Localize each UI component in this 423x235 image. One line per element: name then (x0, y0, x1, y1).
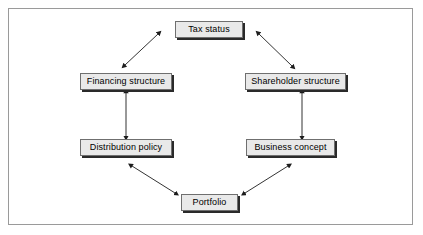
node-tax-status[interactable]: Tax status (175, 21, 243, 38)
node-label: Tax status (187, 25, 231, 34)
arrow-business-concept--portfolio (245, 166, 288, 193)
node-label: Distribution policy (89, 143, 163, 152)
node-label: Business concept (253, 143, 327, 152)
node-label: Financing structure (86, 77, 166, 86)
node-shareholder-structure[interactable]: Shareholder structure (245, 73, 346, 90)
arrow-tax-status--shareholder-structure (259, 34, 292, 66)
node-financing-structure[interactable]: Financing structure (80, 73, 172, 90)
node-portfolio[interactable]: Portfolio (181, 194, 238, 211)
arrow-financing-structure--tax-status (125, 34, 158, 65)
node-label: Portfolio (192, 198, 228, 207)
node-label: Shareholder structure (250, 77, 341, 86)
diagram-canvas: Tax statusFinancing structureShareholder… (0, 0, 423, 235)
node-distribution-policy[interactable]: Distribution policy (80, 139, 172, 156)
node-business-concept[interactable]: Business concept (246, 139, 335, 156)
arrow-distribution-policy--portfolio (132, 166, 175, 193)
